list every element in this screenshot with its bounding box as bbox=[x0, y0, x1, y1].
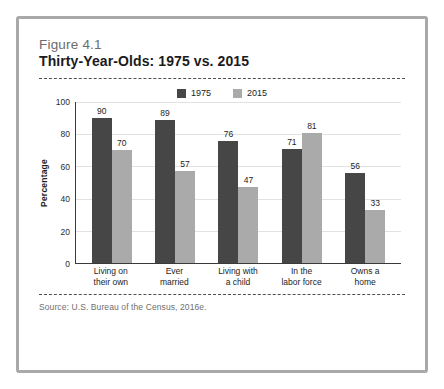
x-axis-label-line: In the bbox=[279, 266, 325, 277]
x-axis-label-line: Owns a bbox=[342, 266, 388, 277]
bar-rect bbox=[238, 187, 258, 263]
bar-group: 8957 bbox=[155, 102, 195, 263]
y-tick-label-20: 20 bbox=[61, 227, 70, 237]
bar-group: 5633 bbox=[345, 102, 385, 263]
figure-number: Figure 4.1 bbox=[39, 37, 407, 52]
y-tick-label-100: 100 bbox=[56, 97, 70, 107]
bar-rect bbox=[112, 150, 132, 263]
x-axis-label-line: Living on bbox=[88, 266, 134, 277]
bar-value-label: 76 bbox=[218, 129, 238, 139]
y-tick-label-40: 40 bbox=[61, 194, 70, 204]
x-axis-label-line: labor force bbox=[279, 277, 325, 288]
bar-rect bbox=[365, 210, 385, 263]
x-axis-label-line: their own bbox=[88, 277, 134, 288]
bar-1975-0[interactable]: 90 bbox=[92, 102, 112, 263]
bar-rect bbox=[345, 173, 365, 263]
bar-rect bbox=[218, 141, 238, 263]
figure-title: Thirty-Year-Olds: 1975 vs. 2015 bbox=[39, 53, 407, 69]
x-axis-labels: Living ontheir ownEvermarriedLiving with… bbox=[75, 266, 401, 288]
divider-top bbox=[39, 78, 405, 79]
bar-1975-2[interactable]: 76 bbox=[218, 102, 238, 263]
legend-swatch-2015 bbox=[233, 89, 242, 98]
bar-1975-4[interactable]: 56 bbox=[345, 102, 365, 263]
bar-1975-1[interactable]: 89 bbox=[155, 102, 175, 263]
bar-2015-2[interactable]: 47 bbox=[238, 102, 258, 263]
bar-value-label: 89 bbox=[155, 108, 175, 118]
x-axis-label-line: married bbox=[151, 277, 197, 288]
figure-content: Figure 4.1 Thirty-Year-Olds: 1975 vs. 20… bbox=[19, 19, 425, 370]
bar-2015-1[interactable]: 57 bbox=[175, 102, 195, 263]
chart-plot-area: Percentage 020406080100 9070895776477181… bbox=[39, 102, 401, 288]
x-axis-label-line: a child bbox=[215, 277, 261, 288]
x-axis-label-4: Owns ahome bbox=[342, 266, 388, 288]
x-axis-label-1: Evermarried bbox=[151, 266, 197, 288]
bar-rect bbox=[155, 120, 175, 263]
divider-bottom bbox=[39, 294, 405, 295]
x-axis-label-3: In thelabor force bbox=[279, 266, 325, 288]
x-axis-label-line: home bbox=[342, 277, 388, 288]
bar-groups: 90708957764771815633 bbox=[76, 102, 401, 263]
x-axis-label-0: Living ontheir own bbox=[88, 266, 134, 288]
bar-group: 9070 bbox=[92, 102, 132, 263]
bar-rect bbox=[175, 171, 195, 263]
chart-legend: 19752015 bbox=[37, 88, 407, 98]
plot-canvas: 90708957764771815633 bbox=[75, 102, 401, 264]
y-tick-label-80: 80 bbox=[61, 129, 70, 139]
y-tick-label-0: 0 bbox=[65, 259, 70, 269]
x-axis-label-line: Living with bbox=[215, 266, 261, 277]
legend-item-2015[interactable]: 2015 bbox=[233, 88, 267, 98]
legend-item-1975[interactable]: 1975 bbox=[177, 88, 211, 98]
bar-group: 7181 bbox=[282, 102, 322, 263]
y-axis-title: Percentage bbox=[37, 102, 51, 264]
bar-value-label: 57 bbox=[175, 159, 195, 169]
bar-value-label: 71 bbox=[282, 137, 302, 147]
legend-swatch-1975 bbox=[177, 89, 186, 98]
bar-value-label: 56 bbox=[345, 161, 365, 171]
x-axis-label-2: Living witha child bbox=[215, 266, 261, 288]
bar-2015-4[interactable]: 33 bbox=[365, 102, 385, 263]
x-axis-label-line: Ever bbox=[151, 266, 197, 277]
bar-group: 7647 bbox=[218, 102, 258, 263]
bar-rect bbox=[282, 149, 302, 263]
legend-label-1975: 1975 bbox=[191, 88, 211, 98]
bar-2015-0[interactable]: 70 bbox=[112, 102, 132, 263]
bar-1975-3[interactable]: 71 bbox=[282, 102, 302, 263]
bar-value-label: 33 bbox=[365, 198, 385, 208]
legend-label-2015: 2015 bbox=[247, 88, 267, 98]
y-axis-title-label: Percentage bbox=[39, 159, 49, 207]
source-note: Source: U.S. Bureau of the Census, 2016e… bbox=[39, 302, 405, 312]
bar-rect bbox=[92, 118, 112, 263]
y-axis-ticks: 020406080100 bbox=[51, 102, 73, 264]
figure-frame: Figure 4.1 Thirty-Year-Olds: 1975 vs. 20… bbox=[16, 16, 428, 373]
bar-value-label: 47 bbox=[238, 175, 258, 185]
bar-2015-3[interactable]: 81 bbox=[302, 102, 322, 263]
bar-rect bbox=[302, 133, 322, 263]
y-tick-label-60: 60 bbox=[61, 162, 70, 172]
bar-value-label: 81 bbox=[302, 121, 322, 131]
bar-value-label: 70 bbox=[112, 138, 132, 148]
bar-value-label: 90 bbox=[92, 106, 112, 116]
